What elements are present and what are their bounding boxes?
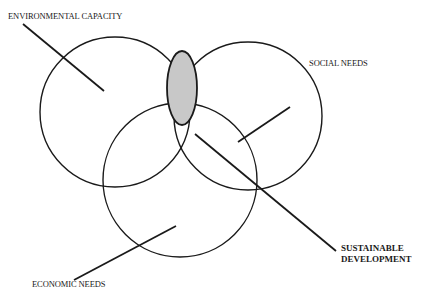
- environmental-capacity-circle: [40, 37, 190, 187]
- sustainable-development-label: SUSTAINABLE DEVELOPMENT: [341, 243, 412, 265]
- economic-needs-circle: [103, 103, 257, 257]
- sustainable-development-intersection: [167, 51, 197, 125]
- economic-needs-label: ECONOMIC NEEDS: [32, 280, 105, 289]
- sustainable-label-line1: SUSTAINABLE: [341, 243, 412, 254]
- environmental-capacity-label: ENVIRONMENTAL CAPACITY: [8, 12, 122, 21]
- social-needs-label: SOCIAL NEEDS: [309, 59, 368, 68]
- sustainable-label-line2: DEVELOPMENT: [341, 254, 412, 265]
- sustainable-leader-line: [195, 134, 336, 251]
- social-leader-line: [238, 107, 290, 142]
- environmental-leader-line: [23, 24, 104, 91]
- social-needs-circle: [174, 42, 322, 190]
